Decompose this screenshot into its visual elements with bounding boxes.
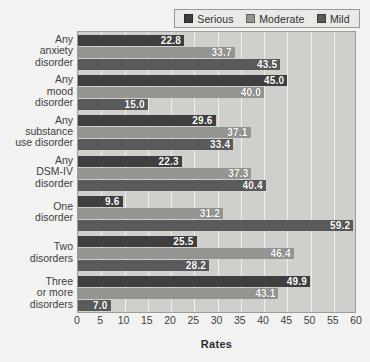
bar-row: 31.2 <box>78 208 355 219</box>
bar-row: 33.4 <box>78 139 355 150</box>
bar-row: 9.6 <box>78 196 355 207</box>
category-axis-labels: AnyanxietydisorderAnymooddisorderAnysubs… <box>0 31 73 313</box>
bar-value-label: 31.2 <box>200 208 223 219</box>
bar-mild[interactable]: 7.0 <box>78 300 111 311</box>
bar-moderate[interactable]: 33.7 <box>78 47 235 58</box>
category-label: Onedisorder <box>0 201 73 224</box>
bar-moderate[interactable]: 46.4 <box>78 248 294 259</box>
bar-row: 40.0 <box>78 87 355 98</box>
legend-item-moderate: Moderate <box>246 13 304 25</box>
bar-serious[interactable]: 25.5 <box>78 236 197 247</box>
bar-row: 28.2 <box>78 260 355 271</box>
bar-moderate[interactable]: 40.0 <box>78 87 264 98</box>
bar-group: 22.337.340.4 <box>78 156 355 192</box>
category-label: Threeor moredisorders <box>0 276 73 310</box>
bar-row: 49.9 <box>78 276 355 287</box>
bar-row: 33.7 <box>78 47 355 58</box>
bar-groups: 22.833.743.545.040.015.029.637.133.422.3… <box>78 32 355 312</box>
bar-mild[interactable]: 43.5 <box>78 59 280 70</box>
chart-legend: Serious Moderate Mild <box>174 9 360 28</box>
x-tick-label: 30 <box>211 314 223 326</box>
category-label: Anymooddisorder <box>0 74 73 108</box>
bar-mild[interactable]: 33.4 <box>78 139 233 150</box>
bar-row: 15.0 <box>78 99 355 110</box>
bar-value-label: 40.4 <box>243 180 266 191</box>
bar-row: 37.3 <box>78 168 355 179</box>
x-axis-title: Rates <box>77 338 356 350</box>
x-tick-label: 40 <box>257 314 269 326</box>
bar-serious[interactable]: 29.6 <box>78 115 216 126</box>
bar-group: 22.833.743.5 <box>78 35 355 71</box>
bar-moderate[interactable]: 43.1 <box>78 288 278 299</box>
bar-group: 29.637.133.4 <box>78 115 355 151</box>
bar-value-label: 33.4 <box>210 139 233 150</box>
bar-mild[interactable]: 15.0 <box>78 99 148 110</box>
bar-row: 43.1 <box>78 288 355 299</box>
category-label: Anyanxietydisorder <box>0 34 73 68</box>
x-tick-label: 25 <box>187 314 199 326</box>
plot-area: 22.833.743.545.040.015.029.637.133.422.3… <box>77 31 356 313</box>
bar-row: 37.1 <box>78 127 355 138</box>
category-label: AnyDSM-IVdisorder <box>0 155 73 189</box>
bar-value-label: 45.0 <box>264 75 287 86</box>
legend-swatch-icon-serious <box>184 14 193 23</box>
x-tick-label: 35 <box>234 314 246 326</box>
bar-value-label: 22.3 <box>158 156 181 167</box>
x-tick-label: 45 <box>280 314 292 326</box>
bar-value-label: 49.9 <box>287 276 310 287</box>
bar-value-label: 22.8 <box>161 35 184 46</box>
x-tick-label: 55 <box>327 314 339 326</box>
bar-row: 45.0 <box>78 75 355 86</box>
bar-value-label: 33.7 <box>211 47 234 58</box>
x-tick-label: 20 <box>164 314 176 326</box>
bar-moderate[interactable]: 37.3 <box>78 168 251 179</box>
legend-item-serious: Serious <box>184 13 233 25</box>
x-tick-label: 50 <box>304 314 316 326</box>
bar-value-label: 43.5 <box>257 59 280 70</box>
x-tick-label: 0 <box>74 314 80 326</box>
bar-mild[interactable]: 40.4 <box>78 180 266 191</box>
legend-swatch-icon-mild <box>317 14 326 23</box>
legend-label-mild: Mild <box>330 13 350 25</box>
bar-serious[interactable]: 49.9 <box>78 276 310 287</box>
bar-row: 59.2 <box>78 220 355 231</box>
x-tick-label: 15 <box>141 314 153 326</box>
bar-serious[interactable]: 9.6 <box>78 196 123 207</box>
category-label: Anysubstanceuse disorder <box>0 115 73 149</box>
bar-value-label: 25.5 <box>173 236 196 247</box>
bar-row: 7.0 <box>78 300 355 311</box>
bar-group: 49.943.17.0 <box>78 276 355 312</box>
x-tick-label: 5 <box>97 314 103 326</box>
bar-value-label: 43.1 <box>255 288 278 299</box>
bar-value-label: 40.0 <box>241 87 264 98</box>
bar-value-label: 59.2 <box>330 220 353 231</box>
bar-moderate[interactable]: 37.1 <box>78 127 251 138</box>
bar-group: 9.631.259.2 <box>78 196 355 232</box>
x-tick-label: 10 <box>118 314 130 326</box>
bar-serious[interactable]: 22.3 <box>78 156 182 167</box>
bar-value-label: 29.6 <box>192 115 215 126</box>
x-tick-label: 60 <box>350 314 362 326</box>
legend-label-serious: Serious <box>197 13 233 25</box>
legend-item-mild: Mild <box>317 13 350 25</box>
bar-moderate[interactable]: 31.2 <box>78 208 223 219</box>
bar-value-label: 37.3 <box>228 168 251 179</box>
bar-row: 29.6 <box>78 115 355 126</box>
bar-row: 40.4 <box>78 180 355 191</box>
bar-value-label: 28.2 <box>186 260 209 271</box>
legend-label-moderate: Moderate <box>259 13 304 25</box>
bar-mild[interactable]: 59.2 <box>78 220 353 231</box>
bar-serious[interactable]: 22.8 <box>78 35 184 46</box>
bar-value-label: 15.0 <box>124 99 147 110</box>
legend-swatch-icon-moderate <box>246 14 255 23</box>
bar-value-label: 46.4 <box>270 248 293 259</box>
bar-serious[interactable]: 45.0 <box>78 75 287 86</box>
bar-group: 45.040.015.0 <box>78 75 355 111</box>
bar-row: 25.5 <box>78 236 355 247</box>
bar-mild[interactable]: 28.2 <box>78 260 209 271</box>
bar-row: 43.5 <box>78 59 355 70</box>
bar-value-label: 37.1 <box>227 127 250 138</box>
bar-value-label: 7.0 <box>93 300 111 311</box>
category-label: Twodisorders <box>0 241 73 264</box>
bar-value-label: 9.6 <box>105 196 123 207</box>
